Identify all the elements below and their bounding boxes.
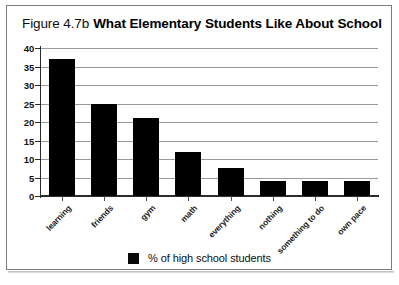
y-axis-tick-mark xyxy=(35,196,41,197)
x-axis-tick-label: math xyxy=(179,203,200,224)
x-axis-tick-label: everything xyxy=(206,203,242,240)
x-axis-tick-label: learning xyxy=(44,203,73,233)
y-axis-tick-label: 25 xyxy=(8,98,34,109)
legend-swatch-icon xyxy=(128,253,139,264)
bars-layer xyxy=(41,48,378,196)
x-axis-tick-mark xyxy=(315,196,316,201)
x-axis-tick-mark xyxy=(273,196,274,201)
x-axis-tick-mark xyxy=(231,196,232,201)
y-axis-tick-label: 40 xyxy=(8,43,34,54)
bar xyxy=(218,168,244,196)
y-axis-tick-label: 30 xyxy=(8,80,34,91)
bar xyxy=(49,59,75,196)
x-axis-tick-mark xyxy=(104,196,105,201)
bar xyxy=(91,104,117,197)
bar xyxy=(302,181,328,196)
x-axis-tick-label: friends xyxy=(89,203,115,230)
y-axis-tick-label: 20 xyxy=(8,117,34,128)
x-axis-tick-label: gym xyxy=(139,203,158,222)
chart-legend: % of high school students xyxy=(0,252,399,264)
figure-container: Figure 4.7bWhat Elementary Students Like… xyxy=(0,0,399,285)
y-axis-tick-label: 5 xyxy=(8,172,34,183)
chart-plot: 0510152025303540 learningfriendsgymmathe… xyxy=(0,0,399,285)
bar xyxy=(260,181,286,196)
bar xyxy=(344,181,370,196)
y-axis-tick-label: 0 xyxy=(8,191,34,202)
x-axis-tick-mark xyxy=(62,196,63,201)
x-axis-tick-mark xyxy=(357,196,358,201)
bar xyxy=(133,118,159,196)
y-axis-tick-label: 10 xyxy=(8,154,34,165)
bar xyxy=(175,152,201,196)
y-axis-tick-label: 35 xyxy=(8,61,34,72)
x-axis-tick-mark xyxy=(146,196,147,201)
x-axis-tick-mark xyxy=(188,196,189,201)
x-axis-tick-label: own pace xyxy=(335,203,368,237)
legend-label: % of high school students xyxy=(148,252,271,264)
x-axis-tick-label: nothing xyxy=(256,203,284,232)
y-axis-tick-label: 15 xyxy=(8,135,34,146)
